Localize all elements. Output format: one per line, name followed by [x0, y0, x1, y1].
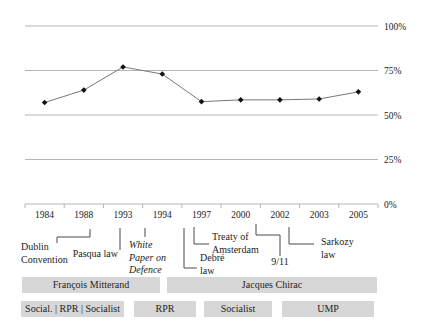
line-chart: 100%75%50%25%0%: [0, 0, 421, 212]
data-point: [238, 97, 244, 103]
connector-debre-law: [184, 228, 197, 268]
connector-sarkozy-law: [289, 227, 314, 244]
x-tick-label: 2003: [299, 210, 339, 222]
x-tick-label: 2005: [338, 210, 378, 222]
y-tick-label: 50%: [384, 111, 402, 121]
data-point: [277, 97, 283, 103]
data-line: [45, 67, 359, 103]
data-point: [81, 87, 87, 93]
party-bar-socialist-rpr-socialist: Social. | RPR | Socialist: [21, 301, 124, 317]
annotation-sarkozy-law: Sarkozy law: [321, 236, 354, 261]
party-bar-socialist: Socialist: [204, 301, 272, 317]
x-tick-label: 1984: [25, 210, 65, 222]
y-tick-label: 75%: [384, 66, 402, 76]
connector-9-11: [256, 224, 280, 256]
data-point: [42, 100, 48, 106]
y-tick-label: 25%: [384, 155, 402, 165]
data-point: [316, 96, 322, 102]
annotation-pasqua-law: Pasqua law: [68, 248, 118, 261]
data-point: [120, 64, 126, 70]
data-point: [356, 89, 362, 95]
y-tick-label: 100%: [384, 22, 406, 32]
x-tick-label: 1988: [64, 210, 104, 222]
annotation-9-11: 9/11: [264, 256, 296, 269]
party-bar-rpr: RPR: [134, 301, 196, 317]
annotation-dublin-convention: Dublin Convention: [21, 241, 68, 266]
figure: 100%75%50%25%0% 198419881993199419972000…: [0, 0, 421, 327]
annotation-white-paper-on-defence: White Paper on Defence: [129, 239, 166, 277]
x-tick-label: 1997: [182, 210, 222, 222]
president-bar-mitterrand: François Mitterand: [22, 277, 160, 293]
x-tick-label: 1993: [103, 210, 143, 222]
x-tick-label: 2000: [221, 210, 261, 222]
x-tick-label: 1994: [142, 210, 182, 222]
president-bar-chirac: Jacques Chirac: [167, 277, 377, 293]
x-tick-label: 2002: [260, 210, 300, 222]
annotation-treaty-of-amsterdam: Treaty of Amsterdam: [212, 231, 259, 256]
connector-treaty-amsterdam: [194, 227, 209, 244]
y-tick-label: 0%: [384, 200, 397, 210]
party-bar-ump: UMP: [282, 301, 374, 317]
